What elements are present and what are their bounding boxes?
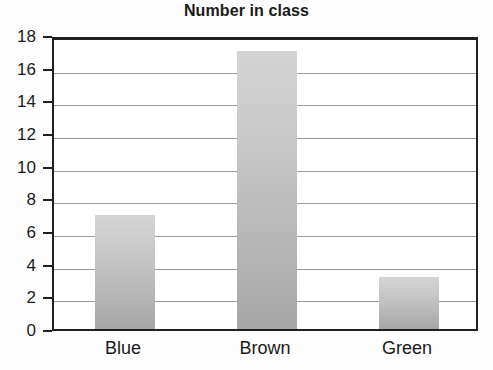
y-tick-label: 14 <box>17 92 36 112</box>
y-tick-label: 18 <box>17 27 36 47</box>
y-axis: 024681012141618 <box>0 37 52 331</box>
bar-brown <box>237 51 297 329</box>
y-tick-label: 16 <box>17 60 36 80</box>
y-tick-mark <box>43 199 52 201</box>
plot-area <box>52 37 478 331</box>
y-tick-label: 2 <box>27 288 36 308</box>
x-tick-label-green: Green <box>382 338 432 359</box>
y-tick-mark <box>43 232 52 234</box>
y-tick-mark <box>43 36 52 38</box>
y-tick-mark <box>43 265 52 267</box>
y-tick-mark <box>43 330 52 332</box>
bar-green <box>379 277 439 329</box>
y-tick-mark <box>43 134 52 136</box>
x-axis: BlueBrownGreen <box>52 338 478 368</box>
x-tick-label-brown: Brown <box>239 338 290 359</box>
y-tick-label: 0 <box>27 321 36 341</box>
y-tick-label: 4 <box>27 256 36 276</box>
chart-page: Number in class 024681012141618 BlueBrow… <box>0 0 493 370</box>
y-tick-label: 10 <box>17 158 36 178</box>
x-tick-label-blue: Blue <box>105 338 141 359</box>
bar-blue <box>95 215 155 329</box>
y-tick-mark <box>43 101 52 103</box>
y-tick-label: 8 <box>27 190 36 210</box>
y-tick-mark <box>43 297 52 299</box>
y-tick-mark <box>43 167 52 169</box>
y-tick-mark <box>43 69 52 71</box>
y-tick-label: 6 <box>27 223 36 243</box>
y-tick-label: 12 <box>17 125 36 145</box>
chart-title: Number in class <box>0 2 493 20</box>
